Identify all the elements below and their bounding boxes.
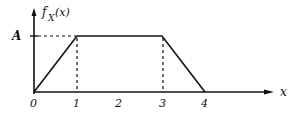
y-label-subscript: X xyxy=(47,13,55,23)
x-tick-label-3: 3 xyxy=(159,97,166,110)
x-tick-label-2: 2 xyxy=(114,97,122,110)
y-axis-label: f X (x) xyxy=(41,5,70,23)
y-label-arg: (x) xyxy=(55,6,70,19)
x-axis-arrow-icon xyxy=(264,90,274,95)
density-curve xyxy=(34,36,205,92)
x-tick-label-1: 1 xyxy=(73,97,80,110)
x-tick-label-0: 0 xyxy=(30,97,37,110)
x-axis-label: x xyxy=(280,85,287,99)
trapezoid-density-chart: A f X (x) 0 1 2 3 4 x xyxy=(0,0,300,118)
y-axis-arrow-icon xyxy=(32,8,37,16)
y-tick-label-a: A xyxy=(11,29,21,43)
x-tick-label-4: 4 xyxy=(200,97,208,110)
